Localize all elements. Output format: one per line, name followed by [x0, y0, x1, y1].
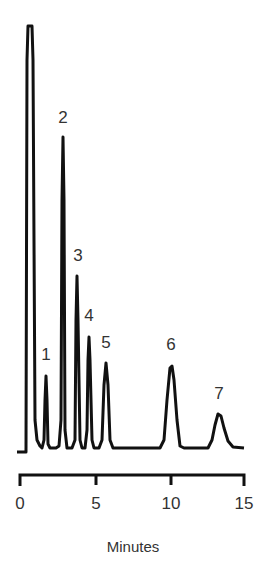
chromatogram-trace	[17, 26, 244, 452]
x-tick-label-5: 5	[91, 494, 100, 514]
x-axis	[20, 475, 244, 486]
chromatogram-plot	[0, 0, 272, 586]
peak-label-5: 5	[101, 333, 110, 353]
x-axis-title: Minutes	[107, 538, 160, 555]
peak-label-1: 1	[41, 345, 50, 365]
x-tick-label-10: 10	[162, 494, 181, 514]
x-tick-label-15: 15	[235, 494, 254, 514]
peak-label-7: 7	[214, 384, 223, 404]
peak-label-2: 2	[58, 108, 67, 128]
peak-label-3: 3	[73, 246, 82, 266]
peak-label-4: 4	[84, 306, 93, 326]
x-tick-label-0: 0	[15, 494, 24, 514]
peak-label-6: 6	[166, 335, 175, 355]
